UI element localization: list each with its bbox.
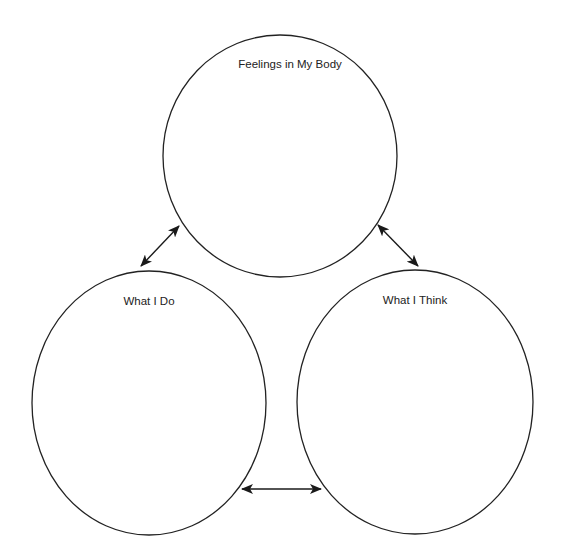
feelings-label: Feelings in My Body [238, 58, 342, 70]
what-i-do-circle [32, 271, 266, 535]
arrow-feelings-think [378, 225, 418, 266]
what-i-think-circle [297, 270, 533, 534]
diagram-canvas: Feelings in My Body What I Do What I Thi… [0, 0, 571, 550]
what-i-do-label: What I Do [123, 295, 174, 307]
diagram-graphics [0, 0, 571, 550]
arrow-feelings-do [141, 226, 179, 266]
what-i-think-label: What I Think [383, 294, 447, 306]
feelings-circle [163, 35, 397, 277]
